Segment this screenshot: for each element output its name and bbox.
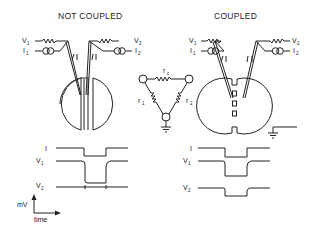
trace-V1 bbox=[56, 161, 128, 183]
svg-text:1: 1 bbox=[142, 101, 145, 106]
arrow-up-icon bbox=[32, 194, 37, 200]
svg-text:1: 1 bbox=[41, 161, 44, 166]
svg-text:1: 1 bbox=[194, 41, 197, 46]
ground-icon bbox=[268, 127, 297, 138]
cell-right bbox=[93, 78, 113, 130]
gap-junction-channel bbox=[233, 111, 237, 116]
microelectrode-icon bbox=[66, 41, 81, 95]
svg-text:I: I bbox=[190, 47, 192, 54]
right-electrode-1: V 1 I 1 bbox=[189, 37, 233, 98]
resistor-icon bbox=[35, 39, 68, 43]
right-traces: I V 1 V 2 bbox=[183, 145, 270, 196]
trace-V1 bbox=[198, 161, 270, 176]
y-axis-label: mV bbox=[17, 201, 28, 208]
arrow-right-icon bbox=[55, 211, 61, 216]
ground-icon bbox=[161, 121, 171, 132]
svg-text:c: c bbox=[167, 71, 170, 76]
svg-text:1: 1 bbox=[27, 41, 30, 46]
x-axis-label: time bbox=[34, 216, 47, 223]
svg-text:r: r bbox=[138, 97, 141, 104]
title-not-coupled: NOT COUPLED bbox=[58, 11, 123, 21]
resistor-icon bbox=[89, 39, 119, 43]
svg-text:I: I bbox=[45, 145, 47, 152]
resistor-icon bbox=[201, 39, 221, 43]
svg-text:2: 2 bbox=[139, 41, 142, 46]
equivalent-circuit: r c r 1 r 2 bbox=[138, 67, 193, 132]
svg-text:r: r bbox=[186, 97, 189, 104]
resistor-icon bbox=[256, 39, 290, 43]
trace-I bbox=[56, 148, 128, 156]
gap-junction-diagram: NOT COUPLED COUPLED V 1 I 1 V 2 I 2 bbox=[0, 0, 310, 228]
coupled-cells bbox=[197, 78, 273, 134]
trace-V2 bbox=[56, 185, 128, 189]
right-electrode-2: V 2 I 2 bbox=[243, 37, 300, 98]
svg-text:2: 2 bbox=[41, 186, 44, 191]
resistor-rc bbox=[147, 77, 185, 81]
svg-text:r: r bbox=[163, 67, 166, 74]
trace-I bbox=[198, 148, 270, 157]
svg-text:I: I bbox=[293, 47, 295, 54]
svg-text:2: 2 bbox=[188, 188, 191, 193]
svg-text:1: 1 bbox=[193, 51, 196, 56]
node-icon bbox=[162, 113, 170, 121]
microelectrode-icon bbox=[243, 41, 258, 98]
svg-text:2: 2 bbox=[138, 51, 141, 56]
svg-text:2: 2 bbox=[297, 41, 300, 46]
svg-text:2: 2 bbox=[190, 101, 193, 106]
svg-text:1: 1 bbox=[26, 51, 29, 56]
svg-text:I: I bbox=[23, 47, 25, 54]
gap-junction-channel bbox=[233, 101, 237, 106]
trace-V2 bbox=[198, 188, 270, 196]
left-electrode-1: V 1 I 1 bbox=[22, 37, 81, 95]
resistor-r2 bbox=[169, 83, 187, 114]
svg-text:2: 2 bbox=[296, 51, 299, 56]
scale-axes: mV time bbox=[17, 194, 61, 223]
svg-text:1: 1 bbox=[188, 161, 191, 166]
node-icon bbox=[185, 75, 193, 83]
left-electrode-2: V 2 I 2 bbox=[86, 37, 142, 95]
svg-text:I: I bbox=[135, 47, 137, 54]
cell-left bbox=[61, 78, 89, 130]
title-coupled: COUPLED bbox=[214, 11, 257, 21]
left-traces: I V 1 V 2 bbox=[36, 145, 128, 191]
resistor-r1 bbox=[145, 83, 163, 114]
gap-junction-channel bbox=[233, 91, 237, 96]
svg-text:I: I bbox=[190, 145, 192, 152]
node-icon bbox=[139, 75, 147, 83]
